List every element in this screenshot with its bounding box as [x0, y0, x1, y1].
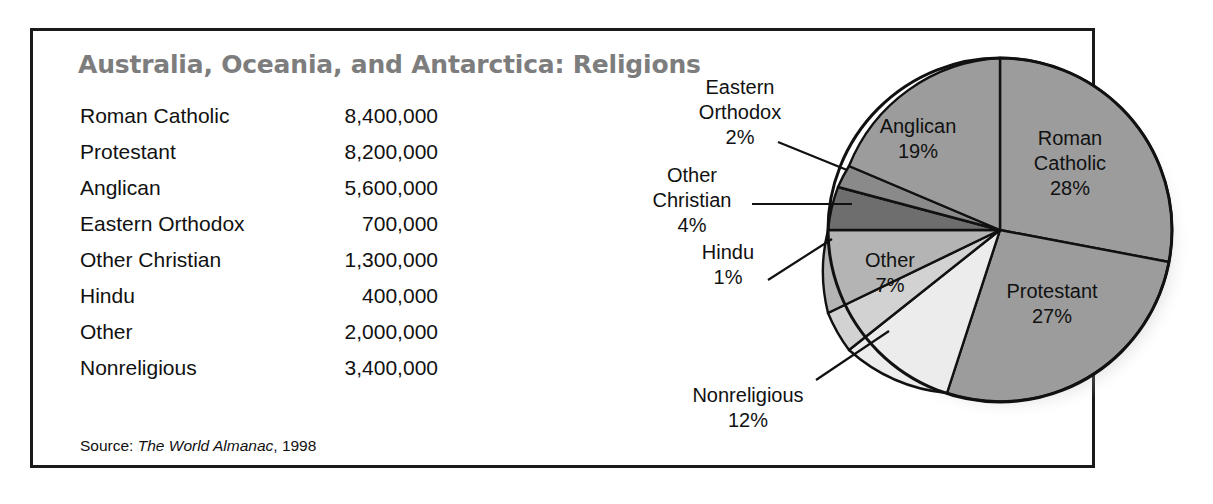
table-cell-value: 8,400,000 — [295, 104, 460, 128]
pie-callout-hindu-percent: 1% — [714, 266, 743, 288]
pie-chart: Roman Catholic 28% Protestant 27% Anglic… — [600, 30, 1213, 470]
table-row: Eastern Orthodox 700,000 — [80, 212, 460, 248]
table-row: Hindu 400,000 — [80, 284, 460, 320]
religion-data-table: Roman Catholic 8,400,000 Protestant 8,20… — [80, 104, 460, 392]
figure-container: Australia, Oceania, and Antarctica: Reli… — [0, 0, 1213, 504]
pie-callout-hindu-line1: Hindu — [702, 241, 754, 263]
pie-label-protestant-percent: 27% — [1032, 305, 1072, 327]
table-row: Roman Catholic 8,400,000 — [80, 104, 460, 140]
pie-label-anglican-percent: 19% — [898, 140, 938, 162]
pie-callout-nonreligious-percent: 12% — [728, 409, 768, 431]
table-cell-value: 700,000 — [295, 212, 460, 236]
pie-label-other: Other — [865, 249, 915, 271]
table-cell-value: 5,600,000 — [295, 176, 460, 200]
table-cell-name: Roman Catholic — [80, 104, 295, 128]
pie-callout-eastern-orthodox-line1: Eastern — [706, 76, 775, 98]
table-cell-value: 400,000 — [295, 284, 460, 308]
pie-callout-nonreligious-line1: Nonreligious — [692, 384, 803, 406]
source-note: Source: The World Almanac, 1998 — [80, 437, 316, 455]
pie-label-protestant: Protestant — [1006, 280, 1098, 302]
source-prefix: Source: — [80, 437, 138, 454]
table-cell-name: Nonreligious — [80, 356, 295, 380]
table-cell-name: Hindu — [80, 284, 295, 308]
source-year: , 1998 — [273, 437, 316, 454]
table-row: Protestant 8,200,000 — [80, 140, 460, 176]
source-publication: The World Almanac — [138, 437, 274, 454]
table-cell-name: Eastern Orthodox — [80, 212, 295, 236]
pie-callout-other-christian-line2: Christian — [653, 189, 732, 211]
table-row: Anglican 5,600,000 — [80, 176, 460, 212]
pie-label-other-percent: 7% — [876, 274, 905, 296]
table-cell-value: 2,000,000 — [295, 320, 460, 344]
table-cell-name: Anglican — [80, 176, 295, 200]
pie-label-anglican: Anglican — [880, 115, 957, 137]
table-cell-name: Protestant — [80, 140, 295, 164]
table-row: Nonreligious 3,400,000 — [80, 356, 460, 392]
leader-line-eastern-orthodox — [778, 142, 847, 170]
pie-label-roman-catholic-line1: Roman — [1038, 127, 1102, 149]
table-cell-name: Other Christian — [80, 248, 295, 272]
table-cell-value: 1,300,000 — [295, 248, 460, 272]
table-row: Other 2,000,000 — [80, 320, 460, 356]
pie-chart-svg: Roman Catholic 28% Protestant 27% Anglic… — [600, 30, 1213, 470]
pie-callout-eastern-orthodox-percent: 2% — [726, 126, 755, 148]
table-cell-value: 3,400,000 — [295, 356, 460, 380]
pie-label-roman-catholic-line2: Catholic — [1034, 152, 1106, 174]
pie-label-roman-catholic-percent: 28% — [1050, 177, 1090, 199]
table-cell-name: Other — [80, 320, 295, 344]
pie-callout-eastern-orthodox-line2: Orthodox — [699, 101, 781, 123]
table-row: Other Christian 1,300,000 — [80, 248, 460, 284]
table-cell-value: 8,200,000 — [295, 140, 460, 164]
pie-callout-other-christian-line1: Other — [667, 164, 717, 186]
pie-callout-other-christian-percent: 4% — [678, 214, 707, 236]
